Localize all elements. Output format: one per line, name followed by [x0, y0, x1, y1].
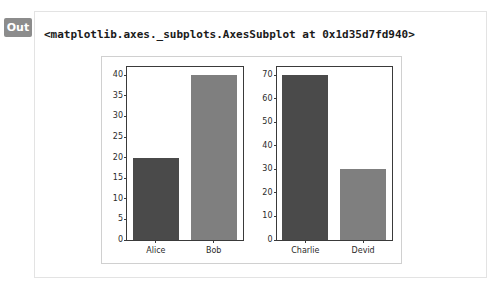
bar-slot [334, 67, 392, 240]
y-tick-label: 20 [262, 187, 272, 198]
y-tick-mark [124, 75, 127, 76]
y-tick-label: 25 [113, 131, 123, 142]
y-tick-label: 30 [262, 163, 272, 174]
bar-slot [277, 67, 335, 240]
y-tick-label: 30 [113, 110, 123, 121]
bar-charlie [282, 75, 328, 240]
y-tick-mark [274, 169, 277, 170]
y-tick-mark [274, 145, 277, 146]
output-cell-root: Out <matplotlib.axes._subplots.AxesSubpl… [0, 0, 497, 291]
y-tick-mark [274, 192, 277, 193]
y-tick-mark [124, 157, 127, 158]
y-tick-label: 50 [262, 116, 272, 127]
matplotlib-figure: 0510152025303540AliceBob 010203040506070… [101, 56, 402, 264]
y-tick-label: 35 [113, 90, 123, 101]
y-tick-label: 10 [113, 193, 123, 204]
output-card: <matplotlib.axes._subplots.AxesSubplot a… [34, 11, 487, 278]
y-tick-mark [124, 137, 127, 138]
bar-slot [185, 67, 243, 240]
x-tick-mark [213, 240, 214, 243]
x-tick-mark [305, 240, 306, 243]
axes-right: 010203040506070CharlieDevid [276, 66, 394, 241]
x-tick-mark [363, 240, 364, 243]
subplot-left: 0510152025303540AliceBob [102, 57, 252, 263]
y-tick-label: 5 [118, 213, 123, 224]
y-tick-mark [124, 95, 127, 96]
y-tick-label: 10 [262, 210, 272, 221]
bar-slot [127, 67, 185, 240]
x-tick-mark [155, 240, 156, 243]
y-tick-label: 0 [118, 234, 123, 245]
y-tick-mark [124, 178, 127, 179]
subplot-grid: 0510152025303540AliceBob 010203040506070… [102, 57, 401, 263]
subplot-right: 010203040506070CharlieDevid [252, 57, 402, 263]
y-tick-mark [124, 198, 127, 199]
axes-repr-text: <matplotlib.axes._subplots.AxesSubplot a… [44, 28, 415, 41]
y-tick-mark [274, 122, 277, 123]
y-tick-label: 15 [113, 172, 123, 183]
bar-devid [340, 169, 386, 240]
x-tick-label: Charlie [291, 245, 319, 256]
x-tick-label: Bob [206, 245, 221, 256]
x-tick-label: Devid [352, 245, 375, 256]
y-tick-mark [274, 75, 277, 76]
y-tick-label: 20 [113, 152, 123, 163]
axes-left: 0510152025303540AliceBob [126, 66, 244, 241]
plot-area-right [277, 67, 393, 240]
output-prompt-badge: Out [4, 18, 32, 37]
y-tick-label: 0 [267, 234, 272, 245]
y-tick-label: 70 [262, 69, 272, 80]
y-tick-mark [124, 116, 127, 117]
bar-alice [133, 158, 179, 240]
y-tick-mark [124, 240, 127, 241]
y-tick-mark [274, 240, 277, 241]
y-tick-label: 40 [262, 140, 272, 151]
y-tick-mark [274, 98, 277, 99]
bar-bob [191, 75, 237, 240]
plot-area-left [127, 67, 243, 240]
y-tick-mark [274, 216, 277, 217]
y-tick-label: 40 [113, 69, 123, 80]
y-tick-mark [124, 219, 127, 220]
y-tick-label: 60 [262, 93, 272, 104]
x-tick-label: Alice [146, 245, 165, 256]
